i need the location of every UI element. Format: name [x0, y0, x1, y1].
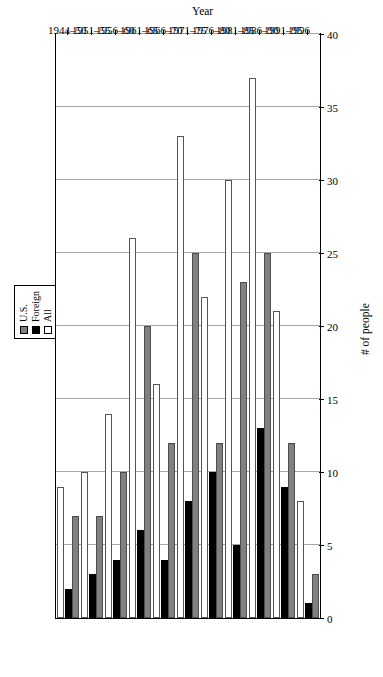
- value-tick-label: 25: [327, 249, 338, 260]
- bar-group: [176, 34, 200, 618]
- category-label: 1996: [288, 25, 310, 36]
- bar-us: [264, 253, 271, 618]
- value-tick-label: 0: [327, 614, 333, 625]
- bar-all: [81, 472, 88, 618]
- bar-us: [168, 443, 175, 618]
- value-tick-label: 40: [327, 30, 338, 41]
- bar-group: [248, 34, 272, 618]
- x-axis-title: Year: [192, 5, 213, 17]
- chart-legend: U.S. Foreign All: [14, 285, 57, 339]
- legend-item-all: All: [42, 291, 53, 334]
- value-tick: [319, 399, 324, 400]
- bar-group: [152, 34, 176, 618]
- bar-foreign: [281, 487, 288, 618]
- bar-group: [104, 34, 128, 618]
- bar-all: [177, 136, 184, 618]
- legend-label-all: All: [42, 309, 53, 322]
- bar-group: [128, 34, 152, 618]
- legend-item-us: U.S.: [18, 291, 29, 334]
- legend-label-us: U.S.: [18, 304, 29, 322]
- legend-label-foreign: Foreign: [30, 291, 41, 322]
- bar-us: [288, 443, 295, 618]
- bar-all: [105, 414, 112, 618]
- bar-all: [297, 501, 304, 618]
- value-tick-label: 15: [327, 395, 338, 406]
- legend-item-foreign: Foreign: [30, 291, 41, 334]
- bar-foreign: [305, 603, 312, 618]
- bar-us: [72, 516, 79, 618]
- bar-all: [57, 487, 64, 618]
- bar-group: [80, 34, 104, 618]
- value-tick: [319, 107, 324, 108]
- bar-series-container: [56, 34, 320, 618]
- legend-swatch-foreign: [32, 326, 40, 334]
- bar-foreign: [233, 545, 240, 618]
- bar-us: [120, 472, 127, 618]
- plot-area: [55, 33, 321, 619]
- value-tick-label: 5: [327, 541, 333, 552]
- bar-us: [240, 282, 247, 618]
- value-tick-label: 10: [327, 468, 338, 479]
- bar-us: [144, 326, 151, 618]
- y-axis-title: # of people: [359, 303, 371, 355]
- bar-us: [96, 516, 103, 618]
- chart-figure: U.S. Foreign All 05101520253035401944–50…: [0, 0, 383, 677]
- bar-us: [192, 253, 199, 618]
- legend-swatch-us: [20, 326, 28, 334]
- value-tick-label: 20: [327, 322, 338, 333]
- value-tick: [319, 472, 324, 473]
- bar-foreign: [161, 560, 168, 618]
- value-tick: [319, 326, 324, 327]
- bar-all: [201, 297, 208, 618]
- bar-group: [296, 34, 320, 618]
- legend-swatch-all: [44, 326, 52, 334]
- bar-group: [56, 34, 80, 618]
- bar-all: [249, 78, 256, 618]
- bar-group: [224, 34, 248, 618]
- bar-foreign: [185, 501, 192, 618]
- bar-foreign: [257, 428, 264, 618]
- bar-group: [200, 34, 224, 618]
- bar-foreign: [113, 560, 120, 618]
- bar-all: [129, 238, 136, 618]
- value-tick: [319, 180, 324, 181]
- value-tick: [319, 253, 324, 254]
- bar-us: [216, 443, 223, 618]
- value-tick: [319, 618, 324, 619]
- bar-group: [272, 34, 296, 618]
- value-tick: [319, 545, 324, 546]
- bar-us: [312, 574, 319, 618]
- bar-foreign: [137, 530, 144, 618]
- value-tick: [319, 34, 324, 35]
- bar-foreign: [65, 589, 72, 618]
- value-tick-label: 35: [327, 103, 338, 114]
- bar-foreign: [89, 574, 96, 618]
- bar-all: [273, 311, 280, 618]
- bar-all: [153, 384, 160, 618]
- value-tick-label: 30: [327, 176, 338, 187]
- bar-all: [225, 180, 232, 618]
- bar-foreign: [209, 472, 216, 618]
